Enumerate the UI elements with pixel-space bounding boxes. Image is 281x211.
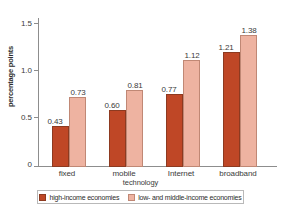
legend-label-low-middle-income: low- and middle-income economies [138, 194, 241, 201]
plot-area: 0.43 0.73 0.60 0.81 0.77 1.12 1.21 1.38 [38, 18, 280, 167]
bar-mobile-high-income [109, 110, 126, 167]
bar-fixed-low-middle-income [69, 97, 86, 167]
legend-item-high-income: high-income economies [39, 194, 119, 201]
bar-mobile-low-middle-income [126, 90, 143, 167]
bar-value-fixed-low-middle-income: 0.73 [66, 88, 90, 97]
bar-value-mobile-low-middle-income: 0.81 [123, 81, 147, 90]
bar-broadband-low-middle-income [240, 35, 257, 167]
bar-value-internet-low-middle-income: 1.12 [180, 51, 204, 60]
bar-value-mobile-high-income: 0.60 [100, 101, 124, 110]
y-axis-title: percentage points [6, 37, 15, 117]
bar-chart: percentage points 1.5 1.0 0.5 0 0.43 0.7… [0, 0, 281, 211]
x-axis-title: technology [0, 178, 281, 187]
bar-value-internet-high-income: 0.77 [157, 85, 181, 94]
bar-internet-high-income [166, 94, 183, 167]
y-tick-label-0-5: 0.5 [8, 113, 32, 122]
y-tick-label-1-0: 1.0 [8, 66, 32, 75]
bar-internet-low-middle-income [183, 60, 200, 167]
y-tick-label-1-5: 1.5 [8, 19, 32, 28]
legend-swatch-icon-high-income [39, 194, 46, 201]
x-category-label-internet: Internet [156, 169, 206, 178]
bar-value-fixed-high-income: 0.43 [43, 117, 67, 126]
legend-item-low-middle-income: low- and middle-income economies [128, 194, 241, 201]
x-category-label-fixed: fixed [42, 169, 92, 178]
legend-swatch-icon-low-middle-income [128, 194, 135, 201]
bar-value-broadband-high-income: 1.21 [214, 43, 238, 52]
bar-broadband-high-income [223, 52, 240, 167]
x-category-label-broadband: broadband [213, 169, 263, 178]
chart-legend: high-income economies low- and middle-in… [37, 190, 244, 204]
bar-value-broadband-low-middle-income: 1.38 [237, 26, 261, 35]
y-tick-label-0: 0 [8, 160, 32, 169]
legend-label-high-income: high-income economies [49, 194, 119, 201]
bar-fixed-high-income [52, 126, 69, 167]
x-category-label-mobile: mobile [99, 169, 149, 178]
